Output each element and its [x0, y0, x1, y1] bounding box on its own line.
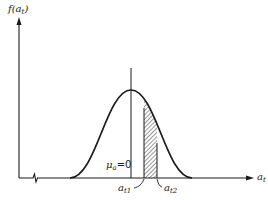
x-axis-arrow-icon: [246, 176, 254, 181]
upper-bound-label: at2: [164, 183, 177, 195]
y-axis-label: f(at): [8, 4, 28, 16]
normal-distribution-diagram: [0, 0, 268, 200]
lower-bound-leader: [134, 179, 144, 188]
lower-bound-label-sub: t1: [124, 187, 131, 195]
y-axis: [17, 17, 22, 178]
y-axis-label-main: f(a: [8, 3, 22, 14]
y-axis-label-close: ): [24, 3, 28, 14]
mean-label: μa=0: [106, 160, 131, 172]
y-axis-arrow-icon: [17, 17, 22, 25]
x-axis-label: at: [257, 172, 266, 184]
x-axis-label-sub: t: [263, 176, 266, 184]
upper-bound-leader: [157, 179, 162, 187]
upper-bound-label-sub: t2: [170, 187, 177, 195]
x-axis: [19, 174, 254, 182]
lower-bound-label: at1: [118, 183, 131, 195]
mean-label-rest: =0: [117, 159, 132, 170]
